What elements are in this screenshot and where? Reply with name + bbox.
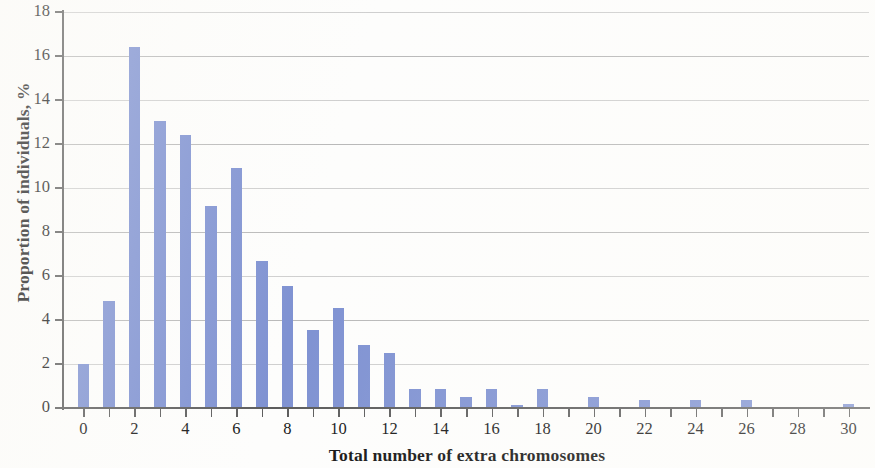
x-tick-label-0: 0 (63, 419, 103, 439)
y-tick-label-14: 14 (4, 89, 50, 109)
x-tick-label-6: 6 (216, 419, 256, 439)
x-axis-title: Total number of extra chromosomes (62, 445, 872, 466)
bar (103, 301, 115, 408)
x-tick-18 (543, 409, 545, 417)
bar (180, 135, 192, 408)
y-tick-0 (55, 407, 64, 409)
x-tick-label-16: 16 (472, 419, 512, 439)
x-tick-7 (262, 409, 264, 417)
y-tick-6 (55, 275, 64, 277)
y-tick-label-12: 12 (4, 133, 50, 153)
bar (486, 389, 498, 408)
x-tick-17 (517, 409, 519, 417)
gridline-16 (63, 56, 869, 57)
y-tick-4 (55, 319, 64, 321)
x-tick-16 (492, 409, 494, 417)
x-tick-label-10: 10 (318, 419, 358, 439)
x-tick-8 (287, 409, 289, 417)
bar (307, 330, 319, 408)
x-tick-label-2: 2 (114, 419, 154, 439)
x-tick-21 (619, 409, 621, 417)
x-tick-9 (313, 409, 315, 417)
x-tick-label-18: 18 (523, 419, 563, 439)
x-tick-25 (721, 409, 723, 417)
x-tick-label-20: 20 (574, 419, 614, 439)
bar (333, 308, 345, 408)
y-axis-line (62, 10, 64, 410)
y-tick-label-4: 4 (4, 309, 50, 329)
bar (384, 353, 396, 408)
y-tick-14 (55, 99, 64, 101)
bar (231, 168, 243, 408)
x-tick-1 (109, 409, 111, 417)
x-tick-27 (772, 409, 774, 417)
x-tick-22 (645, 409, 647, 417)
x-tick-26 (747, 409, 749, 417)
x-tick-13 (415, 409, 417, 417)
y-tick-label-6: 6 (4, 265, 50, 285)
histogram-figure: Proportion of individuals, % Total numbe… (0, 0, 875, 468)
x-tick-11 (364, 409, 366, 417)
x-tick-14 (440, 409, 442, 417)
x-tick-28 (798, 409, 800, 417)
x-tick-label-24: 24 (676, 419, 716, 439)
x-tick-label-28: 28 (778, 419, 818, 439)
gridline-14 (63, 100, 869, 101)
x-tick-6 (236, 409, 238, 417)
bar (78, 364, 90, 408)
bar (537, 389, 549, 408)
y-tick-12 (55, 143, 64, 145)
bar (282, 286, 294, 408)
x-tick-3 (160, 409, 162, 417)
x-tick-0 (83, 409, 85, 417)
x-tick-label-14: 14 (420, 419, 460, 439)
bar (358, 345, 370, 408)
x-tick-30 (849, 409, 851, 417)
y-tick-label-10: 10 (4, 177, 50, 197)
x-tick-2 (134, 409, 136, 417)
x-tick-label-12: 12 (369, 419, 409, 439)
y-tick-16 (55, 55, 64, 57)
y-tick-label-18: 18 (4, 1, 50, 21)
x-tick-12 (389, 409, 391, 417)
y-tick-10 (55, 187, 64, 189)
y-tick-2 (55, 363, 64, 365)
bar (435, 389, 447, 408)
y-tick-label-8: 8 (4, 221, 50, 241)
x-tick-label-4: 4 (165, 419, 205, 439)
x-tick-19 (568, 409, 570, 417)
x-tick-label-26: 26 (727, 419, 767, 439)
bar (129, 47, 141, 408)
gridline-18 (63, 12, 869, 13)
bar (409, 389, 421, 408)
x-tick-15 (466, 409, 468, 417)
x-tick-4 (185, 409, 187, 417)
x-tick-5 (211, 409, 213, 417)
bar (205, 206, 217, 408)
x-tick-24 (696, 409, 698, 417)
x-tick-29 (823, 409, 825, 417)
y-tick-label-0: 0 (4, 397, 50, 417)
plot-area (63, 12, 869, 408)
bar (256, 261, 268, 408)
y-tick-label-16: 16 (4, 45, 50, 65)
y-tick-label-2: 2 (4, 353, 50, 373)
x-tick-10 (338, 409, 340, 417)
x-tick-label-8: 8 (267, 419, 307, 439)
y-tick-8 (55, 231, 64, 233)
bar (154, 121, 166, 408)
x-tick-20 (594, 409, 596, 417)
y-tick-18 (55, 11, 64, 13)
x-tick-label-30: 30 (829, 419, 869, 439)
x-tick-23 (670, 409, 672, 417)
x-tick-label-22: 22 (625, 419, 665, 439)
